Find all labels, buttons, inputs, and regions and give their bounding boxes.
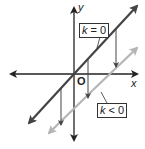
- y-axis-label: y: [78, 2, 84, 13]
- diagram-canvas: [0, 0, 145, 149]
- label-k-zero: k = 0: [79, 23, 109, 38]
- x-axis-label: x: [131, 78, 137, 89]
- origin-label: O: [77, 76, 86, 87]
- leader-k-negative: [101, 92, 107, 103]
- label-k-negative: k < 0: [97, 103, 127, 118]
- line-k-negative: [49, 48, 137, 133]
